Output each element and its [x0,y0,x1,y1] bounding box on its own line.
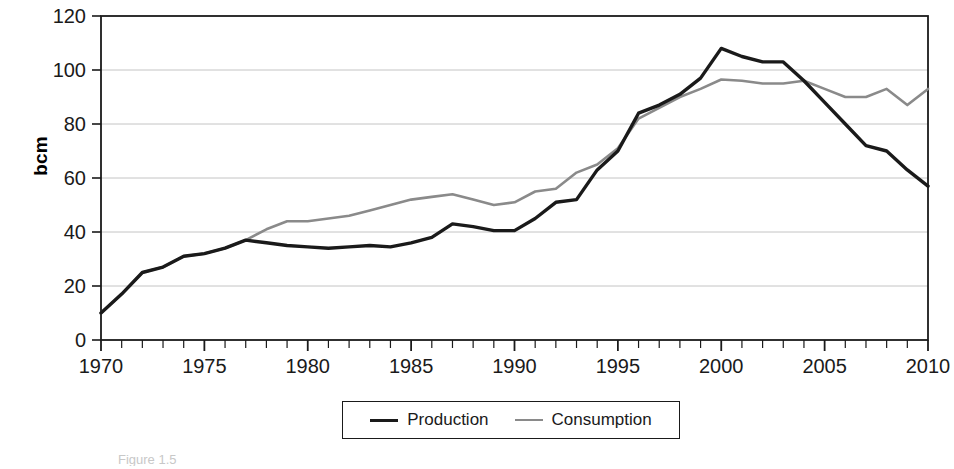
x-tick-label: 2010 [906,355,951,377]
x-tick-label: 1975 [182,355,227,377]
x-axis-ticks: 197019751980198519901995200020052010 [79,340,951,377]
x-tick-label: 2005 [802,355,847,377]
x-tick-label: 1995 [596,355,641,377]
chart-legend: Production Consumption [342,401,680,439]
y-tick-label: 20 [64,275,86,297]
legend-swatch-consumption-icon [515,419,543,421]
x-tick-label: 1990 [492,355,537,377]
legend-label-production: Production [407,410,488,430]
x-tick-label: 1985 [389,355,434,377]
y-tick-label: 0 [75,329,86,351]
legend-swatch-production-icon [370,419,398,422]
y-tick-label: 120 [53,5,86,27]
legend-entry-consumption: Consumption [515,410,652,430]
legend-entry-production: Production [370,410,488,430]
gridlines [101,70,928,286]
y-tick-label: 100 [53,59,86,81]
y-tick-label: 80 [64,113,86,135]
x-tick-label: 2000 [699,355,744,377]
line-chart: 020406080100120 197019751980198519901995… [0,0,954,469]
y-tick-label: 60 [64,167,86,189]
series-line-production [101,48,928,313]
x-tick-label: 1970 [79,355,124,377]
y-axis-ticks: 020406080100120 [53,5,101,351]
series-line-consumption [101,79,928,313]
x-tick-label: 1980 [286,355,331,377]
y-tick-label: 40 [64,221,86,243]
figure-caption: Figure 1.5 [118,452,177,466]
legend-label-consumption: Consumption [552,410,652,430]
figure-root: bcm 020406080100120 19701975198019851990… [0,0,954,469]
series-lines [101,48,928,313]
